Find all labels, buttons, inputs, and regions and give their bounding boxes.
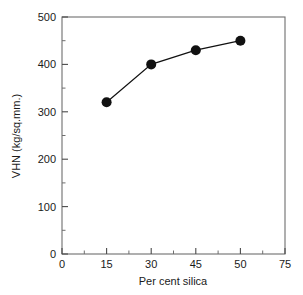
data-point-marker: [102, 97, 112, 107]
chart-container: 0100200300400500 01530455075 Per cent si…: [0, 0, 303, 295]
plot-box: [62, 17, 285, 254]
y-tick-label: 500: [38, 11, 56, 23]
line-chart: 0100200300400500 01530455075 Per cent si…: [0, 0, 303, 295]
data-point-marker: [191, 45, 201, 55]
data-point-marker: [235, 36, 245, 46]
y-axis-ticks: [62, 17, 68, 254]
y-axis-tick-labels: 0100200300400500: [38, 11, 56, 260]
x-tick-label: 30: [145, 258, 157, 270]
y-tick-label: 300: [38, 106, 56, 118]
x-tick-label: 45: [190, 258, 202, 270]
y-tick-label: 400: [38, 58, 56, 70]
x-tick-label: 15: [100, 258, 112, 270]
x-axis-ticks: [62, 248, 285, 254]
plot-frame: [62, 17, 285, 254]
series-line: [107, 41, 241, 103]
y-axis-title: VHN (kg/sq.mm.): [10, 94, 22, 178]
y-tick-label: 200: [38, 153, 56, 165]
data-series-layer: [102, 36, 246, 108]
data-point-marker: [146, 59, 156, 69]
y-tick-label: 100: [38, 201, 56, 213]
x-tick-label: 75: [279, 258, 291, 270]
y-tick-label: 0: [50, 248, 56, 260]
x-axis-tick-labels: 01530455075: [59, 258, 291, 270]
x-tick-label: 0: [59, 258, 65, 270]
x-axis-title: Per cent silica: [139, 275, 208, 287]
x-tick-label: 50: [234, 258, 246, 270]
